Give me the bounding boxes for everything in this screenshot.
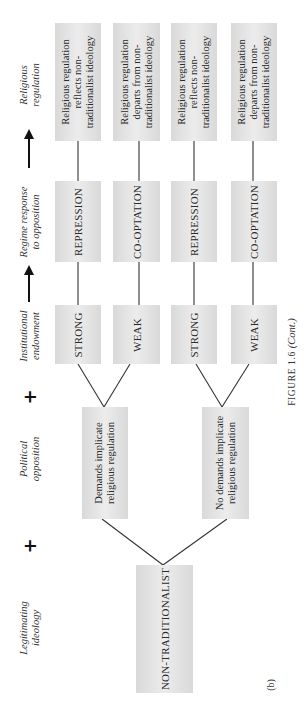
label-line: ideology <box>30 601 42 655</box>
arrow-up-icon <box>24 129 34 169</box>
panel-label: (b) <box>265 679 276 691</box>
label-regime-response: Regime response to opposition <box>18 186 42 257</box>
text-line: Religious regulation <box>236 36 248 128</box>
endowment-box: WEAK <box>231 305 277 364</box>
text-line: Religious regulation <box>119 36 131 128</box>
endowment-label: STRONG <box>188 312 200 357</box>
endowment-box: STRONG <box>55 305 101 364</box>
label-line: Political <box>18 437 30 481</box>
text-line: Religious regulation <box>60 36 72 128</box>
ideology-box: NON-TRADITIONALIST <box>136 565 193 693</box>
label-political-opposition: Political opposition <box>18 437 42 481</box>
endowment-label: WEAK <box>248 318 260 352</box>
opposition-box: No demands implicate religious regulatio… <box>202 407 249 519</box>
text-line: No demands implicate <box>214 416 226 510</box>
regulation-box: Religious regulation reflects non- tradi… <box>55 23 101 141</box>
regulation-text: Religious regulation departs from non- t… <box>119 36 154 128</box>
endowment-label: STRONG <box>72 312 84 357</box>
regulation-text: Religious regulation reflects non- tradi… <box>176 36 211 128</box>
figure-caption: FIGURE 1.6 (Cont.) <box>286 318 297 406</box>
regulation-box: Religious regulation departs from non- t… <box>231 23 277 141</box>
regulation-box: Religious regulation departs from non- t… <box>113 23 160 141</box>
regulation-text: Religious regulation reflects non- tradi… <box>60 36 95 128</box>
label-line: to opposition <box>30 186 42 257</box>
response-box: CO-OPTATION <box>231 181 277 262</box>
plus-icon: + <box>19 389 40 404</box>
ideology-label: NON-TRADITIONALIST <box>158 568 170 690</box>
response-box: REPRESSION <box>55 181 101 262</box>
text-line: traditionalist ideology <box>200 36 212 128</box>
caption-suffix: (Cont.) <box>286 318 297 348</box>
text-line: departs from non- <box>131 36 143 128</box>
text-line: traditionalist ideology <box>260 36 272 128</box>
response-box: REPRESSION <box>171 181 217 262</box>
opposition-box: Demands implicate religious regulation <box>82 407 128 519</box>
label-legitimating-ideology: Legitimating ideology <box>18 601 42 655</box>
text-line: Demands implicate <box>93 422 105 504</box>
text-line: religious regulation <box>105 422 117 504</box>
text-line: traditionalist ideology <box>84 36 96 128</box>
response-label: REPRESSION <box>72 187 84 255</box>
response-box: CO-OPTATION <box>113 181 160 262</box>
label-line: regulation <box>30 63 42 106</box>
label-institutional-endowment: Institutional endowment <box>18 310 42 361</box>
arrow-up-icon <box>24 265 34 303</box>
regulation-box: Religious regulation reflects non- tradi… <box>171 23 217 141</box>
opposition-text: No demands implicate religious regulatio… <box>214 416 238 510</box>
label-line: opposition <box>30 437 42 481</box>
endowment-box: WEAK <box>113 305 160 364</box>
text-line: reflects non- <box>72 36 84 128</box>
text-line: departs from non- <box>248 36 260 128</box>
text-line: Religious regulation <box>176 36 188 128</box>
plus-icon: + <box>19 538 40 553</box>
endowment-label: WEAK <box>130 318 142 352</box>
label-line: Legitimating <box>18 601 30 655</box>
opposition-text: Demands implicate religious regulation <box>93 422 117 504</box>
text-line: traditionalist ideology <box>142 36 154 128</box>
label-religious-regulation: Religious regulation <box>18 63 42 106</box>
label-line: Religious <box>18 63 30 106</box>
caption-label: FIGURE 1.6 <box>287 351 297 406</box>
response-label: REPRESSION <box>188 187 200 255</box>
response-label: CO-OPTATION <box>248 184 260 258</box>
label-line: endowment <box>30 310 42 361</box>
regulation-text: Religious regulation departs from non- t… <box>236 36 271 128</box>
label-line: Institutional <box>18 310 30 361</box>
response-label: CO-OPTATION <box>130 184 142 258</box>
label-line: Regime response <box>18 186 30 257</box>
text-line: religious regulation <box>226 416 238 510</box>
text-line: reflects non- <box>188 36 200 128</box>
endowment-box: STRONG <box>171 305 217 364</box>
